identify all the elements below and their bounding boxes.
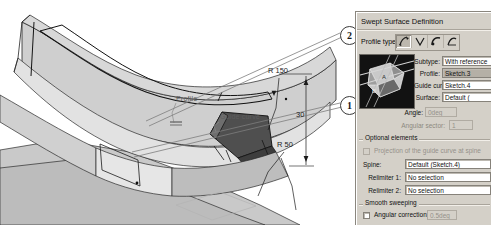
optional-elements-label: Optional elements	[363, 134, 419, 141]
relimiter-2-label: Relimiter 2:	[363, 187, 401, 194]
dimension-length-30: 30	[296, 110, 304, 119]
optional-elements-group: Optional elements	[359, 135, 490, 144]
field-row-surface: Surface: Default (	[414, 92, 491, 103]
relimiter-1-label: Relimiter 1:	[363, 174, 401, 181]
dimension-radius-50: R 50	[277, 140, 293, 149]
field-row-relimiter-1: Relimiter 1: No selection	[363, 172, 491, 183]
angular-sector-label: Angular sector:	[397, 122, 445, 129]
explicit-sweep-icon[interactable]	[396, 35, 412, 48]
surface-input[interactable]: Default (	[442, 92, 491, 102]
profile-annotation-label: Profile	[176, 95, 197, 102]
projection-checkbox-row[interactable]: Projection of the guide curve at spine	[363, 147, 491, 157]
profile-type-toolbar[interactable]	[395, 34, 460, 51]
field-row-relimiter-2: Relimiter 2: No selection	[363, 185, 491, 196]
profile-input[interactable]: Sketch.3	[442, 68, 491, 78]
screenshot-root: Profile Guide curve R 150 30 R 50 2 1 Sw…	[0, 0, 491, 225]
subtype-label: Subtype:	[414, 58, 440, 65]
angular-sector-input[interactable]: 1	[449, 120, 473, 130]
angular-correction-checkbox[interactable]	[363, 212, 370, 219]
field-row-angle: Angle: 0deg	[397, 107, 491, 118]
svg-text:B: B	[372, 88, 376, 94]
smooth-sweeping-group: Smooth sweeping	[359, 200, 490, 209]
angle-label: Angle:	[397, 109, 423, 116]
spine-label: Spine:	[363, 161, 401, 168]
title-separator	[357, 29, 491, 31]
angular-correction-input[interactable]: 0.5deg	[427, 210, 457, 220]
cad-model-drawing	[0, 0, 360, 225]
sweep-preview-thumbnail: A B	[359, 54, 415, 109]
profile-label: Profile:	[414, 70, 440, 77]
dimension-radius-150: R 150	[268, 66, 288, 75]
projection-checkbox-label: Projection of the guide curve at spine	[374, 147, 481, 154]
dialog-title: Swept Surface Definition	[361, 17, 443, 26]
spine-input[interactable]: Default (Sketch.4)	[405, 159, 491, 169]
angle-input[interactable]: 0deg	[425, 107, 457, 117]
smooth-sweeping-label: Smooth sweeping	[363, 199, 419, 206]
field-row-profile: Profile: Sketch.3	[414, 68, 491, 79]
relimiter-2-input[interactable]: No selection	[405, 185, 491, 195]
guide-curve-label: Guide curve:	[414, 82, 440, 89]
profile-type-label: Profile type:	[361, 38, 398, 45]
profile-type-row: Profile type:	[361, 34, 491, 50]
swept-surface-definition-dialog[interactable]: Swept Surface Definition Profile type:	[356, 12, 491, 225]
field-row-angular-sector: Angular sector: 1	[397, 120, 491, 131]
surface-label: Surface:	[414, 94, 440, 101]
field-row-guide-curve: Guide curve: Sketch.4	[414, 80, 491, 91]
subtype-input[interactable]: With reference	[442, 56, 491, 66]
field-row-subtype: Subtype: With reference	[414, 56, 491, 67]
relimiter-1-input[interactable]: No selection	[405, 172, 491, 182]
projection-checkbox[interactable]	[363, 148, 370, 155]
svg-text:A: A	[382, 74, 386, 80]
circle-sweep-icon[interactable]	[428, 35, 444, 48]
guide-curve-annotation-label: Guide curve	[220, 113, 260, 120]
cad-3d-viewport[interactable]: Profile Guide curve R 150 30 R 50	[0, 0, 360, 225]
angular-correction-row[interactable]: Angular correction: 0.5deg	[363, 211, 491, 221]
guide-curve-input[interactable]: Sketch.4	[442, 80, 491, 90]
conic-sweep-icon[interactable]	[444, 35, 459, 48]
angular-correction-label: Angular correction:	[374, 211, 429, 218]
line-sweep-icon[interactable]	[412, 35, 428, 48]
field-row-spine: Spine: Default (Sketch.4)	[363, 159, 491, 170]
